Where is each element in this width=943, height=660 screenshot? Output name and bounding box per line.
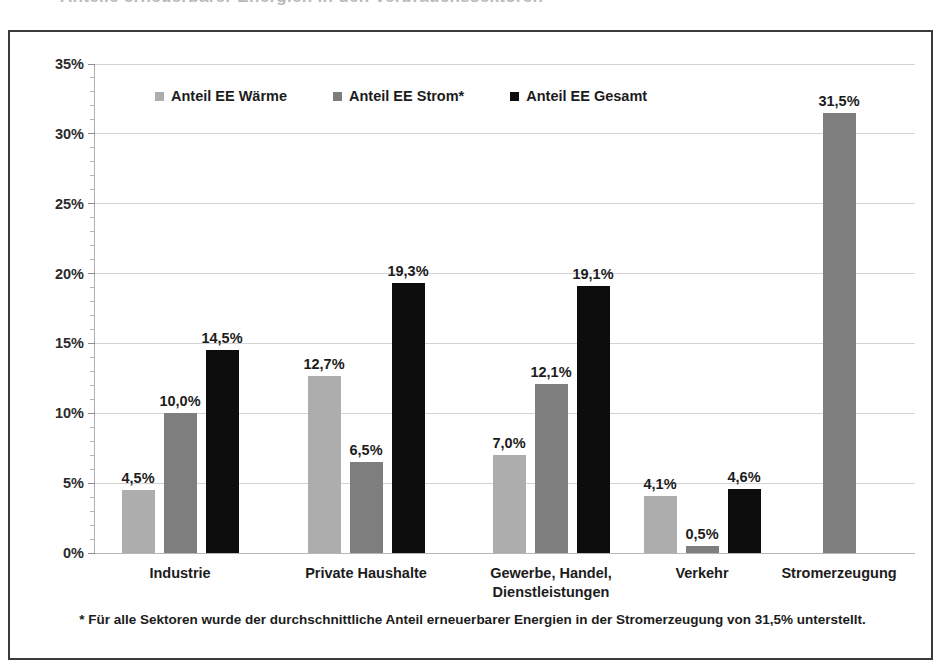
legend-swatch-icon-waerme [155, 92, 164, 101]
footnote-text: * Für alle Sektoren wurde der durchschni… [10, 612, 935, 627]
y-tick-minor-31 [90, 119, 95, 120]
y-tick-minor-7 [90, 455, 95, 456]
cropped-header-remnant: Anteile erneuerbarer Energien in den Ver… [0, 0, 943, 12]
bar-value-label: 4,1% [643, 476, 676, 492]
bar-value-label: 4,6% [727, 469, 760, 485]
y-tick-major-15 [88, 343, 95, 344]
y-tick-minor-21 [90, 259, 95, 260]
y-axis-label-30: 30% [55, 126, 84, 142]
bar-value-label: 14,5% [201, 330, 242, 346]
bar-slot: 19,1% [577, 64, 610, 553]
bar-group-bars-1: 12,7%6,5%19,3% [291, 64, 441, 553]
bar-slot: 14,5% [206, 64, 239, 553]
bar[interactable]: 0,5% [686, 546, 719, 553]
x-axis-category-label-1: Private Haushalte [305, 564, 427, 583]
y-tick-major-30 [88, 133, 95, 134]
legend-swatch-icon-strom [333, 92, 342, 101]
x-axis-category-label-2: Gewerbe, Handel,Dienstleistungen [490, 564, 612, 601]
y-axis-label-5: 5% [63, 475, 84, 491]
y-axis-label-35: 35% [55, 56, 84, 72]
y-tick-major-5 [88, 483, 95, 484]
bar-slot: 19,3% [392, 64, 425, 553]
y-tick-minor-27 [90, 175, 95, 176]
bar-group-1: 12,7%6,5%19,3%Private Haushalte [291, 64, 441, 553]
y-tick-minor-24 [90, 217, 95, 218]
bar-group-bars-2: 7,0%12,1%19,1% [476, 64, 626, 553]
legend-item-strom[interactable]: Anteil EE Strom* [333, 88, 464, 104]
bar[interactable]: 19,3% [392, 283, 425, 553]
y-axis-label-15: 15% [55, 335, 84, 351]
y-tick-minor-1 [90, 539, 95, 540]
y-tick-minor-32 [90, 105, 95, 106]
bar-slot: 4,5% [122, 64, 155, 553]
y-tick-minor-28 [90, 161, 95, 162]
bar-value-label: 10,0% [159, 393, 200, 409]
y-tick-major-20 [88, 273, 95, 274]
bar-value-label: 19,3% [387, 263, 428, 279]
y-tick-minor-29 [90, 147, 95, 148]
y-axis-label-20: 20% [55, 266, 84, 282]
y-tick-minor-23 [90, 231, 95, 232]
bar[interactable]: 6,5% [350, 462, 383, 553]
y-tick-minor-13 [90, 371, 95, 372]
y-tick-minor-22 [90, 245, 95, 246]
bar[interactable]: 12,1% [535, 384, 568, 553]
y-tick-minor-6 [90, 469, 95, 470]
y-tick-minor-2 [90, 525, 95, 526]
y-tick-minor-26 [90, 189, 95, 190]
bar-slot: 4,6% [728, 64, 761, 553]
bar-value-label: 12,1% [530, 364, 571, 380]
y-tick-minor-11 [90, 399, 95, 400]
bar-group-4: 31,5%Stromerzeugung [764, 64, 914, 553]
bar[interactable]: 14,5% [206, 350, 239, 553]
bar[interactable]: 31,5% [823, 113, 856, 553]
y-axis-spine [94, 64, 95, 553]
y-tick-minor-16 [90, 329, 95, 330]
y-tick-minor-3 [90, 511, 95, 512]
y-tick-major-25 [88, 203, 95, 204]
bar-value-label: 19,1% [572, 266, 613, 282]
y-tick-minor-8 [90, 441, 95, 442]
bar[interactable]: 7,0% [493, 455, 526, 553]
bar-slot: 12,1% [535, 64, 568, 553]
legend-swatch-icon-gesamt [510, 92, 519, 101]
bar[interactable]: 4,5% [122, 490, 155, 553]
cropped-header-text: Anteile erneuerbarer Energien in den Ver… [60, 0, 543, 7]
bar-group-0: 4,5%10,0%14,5%Industrie [105, 64, 255, 553]
y-tick-minor-34 [90, 77, 95, 78]
bar-group-3: 4,1%0,5%4,6%Verkehr [627, 64, 777, 553]
y-tick-minor-9 [90, 427, 95, 428]
y-tick-minor-19 [90, 287, 95, 288]
bar[interactable]: 4,6% [728, 489, 761, 553]
bar-group-2: 7,0%12,1%19,1%Gewerbe, Handel,Dienstleis… [476, 64, 626, 553]
bar[interactable]: 4,1% [644, 496, 677, 553]
bar-value-label: 0,5% [685, 526, 718, 542]
bar[interactable]: 12,7% [308, 376, 341, 553]
y-tick-major-35 [88, 64, 95, 65]
legend-label-strom: Anteil EE Strom* [349, 88, 464, 104]
bar-slot: 10,0% [164, 64, 197, 553]
bar-slot: 12,7% [308, 64, 341, 553]
bar[interactable]: 19,1% [577, 286, 610, 553]
y-tick-major-0 [88, 553, 95, 554]
y-tick-minor-17 [90, 315, 95, 316]
bar-value-label: 7,0% [492, 435, 525, 451]
legend-item-gesamt[interactable]: Anteil EE Gesamt [510, 88, 647, 104]
y-tick-minor-4 [90, 497, 95, 498]
bar-slot: 4,1% [644, 64, 677, 553]
chart-figure-frame: 0%5%10%15%20%25%30%35% 4,5%10,0%14,5%Ind… [8, 30, 933, 660]
bar-group-bars-3: 4,1%0,5%4,6% [627, 64, 777, 553]
y-tick-minor-12 [90, 385, 95, 386]
bar-slot: 0,5% [686, 64, 719, 553]
x-axis-category-label-0: Industrie [149, 564, 210, 583]
y-axis-label-25: 25% [55, 196, 84, 212]
bar-group-bars-0: 4,5%10,0%14,5% [105, 64, 255, 553]
y-tick-minor-33 [90, 91, 95, 92]
legend-item-waerme[interactable]: Anteil EE Wärme [155, 88, 287, 104]
plot-area: 0%5%10%15%20%25%30%35% 4,5%10,0%14,5%Ind… [95, 64, 915, 553]
bar-value-label: 6,5% [349, 442, 382, 458]
bar-value-label: 4,5% [121, 470, 154, 486]
bar-group-bars-4: 31,5% [764, 64, 914, 553]
bar[interactable]: 10,0% [164, 413, 197, 553]
y-axis-label-10: 10% [55, 405, 84, 421]
